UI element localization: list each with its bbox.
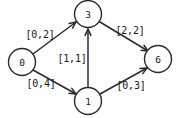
node-3[interactable]: 3 [75,1,102,28]
diagram-canvas: 0316 [0,2][0,4][1,1][2,2][0,3] [0,0,180,118]
node-0[interactable]: 0 [9,49,36,76]
node-label: 6 [155,54,161,65]
edge-label: [2,2] [115,25,144,36]
node-label: 0 [19,57,25,68]
nodes-group: 0316 [9,1,172,115]
edge-label: [0,2] [25,29,54,40]
node-label: 3 [85,9,91,20]
edge-label: [0,4] [26,78,55,89]
edge-label: [0,3] [116,80,145,91]
node-6[interactable]: 6 [145,46,172,73]
edge-label: [1,1] [57,53,86,64]
node-1[interactable]: 1 [75,88,102,115]
node-label: 1 [85,96,91,107]
graph-svg: 0316 [0,2][0,4][1,1][2,2][0,3] [0,0,180,118]
